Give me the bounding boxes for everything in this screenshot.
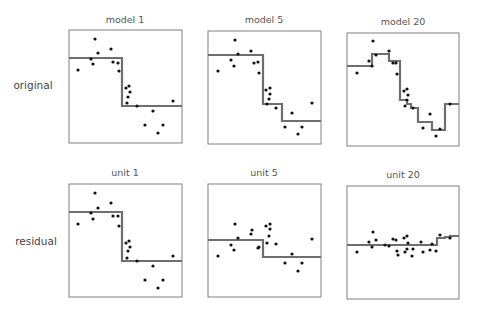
data-point (310, 101, 313, 104)
data-point (387, 244, 390, 247)
panel-model-1: model 1 (69, 14, 182, 143)
data-point (374, 53, 377, 56)
panel-unit-20: unit 20 (347, 169, 459, 299)
data-point (89, 211, 92, 214)
data-point (117, 224, 120, 227)
panel-title: model 20 (381, 16, 426, 27)
data-point (406, 93, 409, 96)
data-point (96, 206, 99, 209)
data-point (410, 254, 413, 257)
panel-title: unit 5 (250, 167, 277, 178)
data-point (127, 239, 130, 242)
data-point (252, 61, 255, 64)
data-point (257, 245, 260, 248)
data-point (403, 250, 406, 253)
data-point (387, 49, 390, 52)
row-label-original: original (13, 79, 52, 91)
data-point (143, 278, 146, 281)
data-point (135, 259, 138, 262)
data-point (229, 58, 232, 61)
data-point (296, 269, 299, 272)
data-point (156, 286, 159, 289)
data-point (116, 214, 119, 217)
data-point (128, 90, 131, 93)
data-point (267, 234, 270, 237)
data-point (233, 38, 236, 41)
data-point (143, 123, 146, 126)
data-point (374, 238, 377, 241)
data-point (411, 106, 414, 109)
data-point (405, 87, 408, 90)
plot-frame (208, 31, 321, 144)
data-point (126, 95, 129, 98)
row-label-residual: residual (15, 235, 57, 247)
data-point (411, 247, 414, 250)
data-point (310, 237, 313, 240)
plot-frame (69, 184, 182, 297)
data-point (216, 69, 219, 72)
data-point (236, 236, 239, 239)
data-point (448, 236, 451, 239)
data-point (367, 240, 370, 243)
data-point (265, 102, 268, 105)
data-point (89, 57, 92, 60)
data-point (233, 222, 236, 225)
data-point (430, 242, 433, 245)
data-point (402, 89, 405, 92)
data-point (124, 86, 127, 89)
data-point (371, 39, 374, 42)
data-point (283, 125, 286, 128)
data-point (391, 61, 394, 64)
data-point (383, 243, 386, 246)
data-point (256, 60, 259, 63)
data-point (274, 106, 277, 109)
panel-unit-5: unit 5 (208, 167, 321, 297)
data-point (394, 61, 397, 64)
data-point (391, 237, 394, 240)
data-point (395, 249, 398, 252)
data-point (265, 241, 268, 244)
data-point (91, 217, 94, 220)
data-point (268, 92, 271, 95)
data-point (128, 245, 131, 248)
data-point (151, 109, 154, 112)
data-point (402, 236, 405, 239)
data-point (274, 242, 277, 245)
data-point (250, 228, 253, 231)
data-point (116, 61, 119, 64)
data-point (421, 250, 424, 253)
data-point (109, 201, 112, 204)
data-point (249, 232, 252, 235)
data-point (438, 127, 441, 130)
data-point (111, 214, 114, 217)
data-point (434, 134, 437, 137)
data-point (171, 254, 174, 257)
data-point (428, 112, 431, 115)
data-point (232, 64, 235, 67)
data-point (300, 125, 303, 128)
data-point (370, 64, 373, 67)
data-point (396, 253, 399, 256)
data-point (257, 71, 260, 74)
data-point (93, 37, 96, 40)
panel-title: model 5 (245, 14, 284, 25)
data-point (156, 131, 159, 134)
data-point (249, 49, 252, 52)
data-point (405, 234, 408, 237)
data-point (216, 254, 219, 257)
data-point (161, 278, 164, 281)
data-point (76, 68, 79, 71)
data-point (421, 126, 424, 129)
panel-unit-1: unit 1 (69, 167, 182, 297)
data-point (127, 84, 130, 87)
data-point (171, 99, 174, 102)
data-point (135, 104, 138, 107)
data-point (76, 222, 79, 225)
data-point (264, 88, 267, 91)
data-point (296, 132, 299, 135)
data-point (268, 86, 271, 89)
data-point (96, 51, 99, 54)
panel-model-5: model 5 (208, 14, 321, 144)
data-point (448, 102, 451, 105)
data-point (403, 104, 406, 107)
